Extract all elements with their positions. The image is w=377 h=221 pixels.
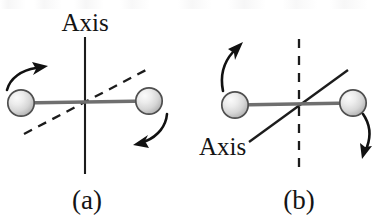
panel-b: Axis (b) [199,39,372,215]
panel-b-rod [235,103,353,105]
panel-b-axis-label: Axis [199,133,246,160]
panel-a-axis-label: Axis [61,9,108,36]
physics-figure: Axis (a) [0,0,377,221]
panel-b-right-sphere [340,90,366,116]
panel-a-upper-rotation-arrow [7,62,48,90]
panel-b-caption: (b) [283,185,314,215]
panel-a-lower-rotation-arrow [133,114,167,148]
panel-b-lower-rotation-arrow [360,114,372,159]
panel-b-left-sphere [222,92,248,118]
panel-a-caption: (a) [72,185,102,215]
panel-a-right-sphere [136,88,162,114]
panel-b-upper-rotation-arrow [222,42,243,91]
panel-a-left-sphere [8,90,34,116]
panel-a-rod [21,101,149,103]
panel-a: Axis (a) [7,9,167,215]
figure-container: Axis (a) [0,0,377,221]
